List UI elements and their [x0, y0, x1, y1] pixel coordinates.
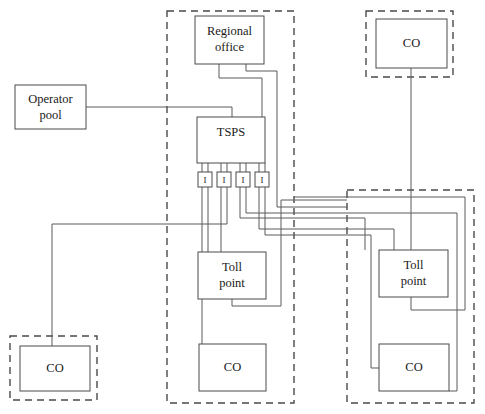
toll-point-right-label-line2: point: [401, 274, 427, 288]
link-group: [52, 64, 465, 391]
node-regional-office[interactable]: Regional office: [195, 16, 264, 64]
node-co-bottom-middle[interactable]: CO: [199, 344, 266, 391]
node-group: Operator pool Regional office TSPS Toll …: [15, 16, 449, 391]
diagram-canvas: Operator pool Regional office TSPS Toll …: [0, 0, 485, 414]
interface-3-label: I: [242, 175, 245, 185]
interface-4[interactable]: I: [255, 172, 269, 187]
toll-point-middle-label-line2: point: [219, 276, 245, 290]
interface-4-label: I: [261, 175, 264, 185]
operator-pool-label-line2: pool: [39, 108, 62, 122]
interface-1-label: I: [204, 175, 207, 185]
node-operator-pool[interactable]: Operator pool: [15, 85, 86, 129]
link-iface4-to-co-bottom-right: [265, 187, 379, 368]
toll-point-right-label-line1: Toll: [404, 258, 424, 272]
node-toll-point-middle[interactable]: Toll point: [198, 252, 266, 299]
node-co-bottom-right[interactable]: CO: [379, 344, 449, 391]
node-toll-point-right[interactable]: Toll point: [379, 250, 448, 297]
interface-3[interactable]: I: [236, 172, 250, 187]
interface-2[interactable]: I: [217, 172, 231, 187]
co-bottom-middle-label: CO: [224, 360, 241, 374]
co-bottom-left-label: CO: [46, 361, 63, 375]
interface-1[interactable]: I: [198, 172, 212, 187]
toll-point-middle-label-line1: Toll: [222, 260, 242, 274]
interface-2-label: I: [223, 175, 226, 185]
regional-office-label-line1: Regional: [207, 24, 253, 38]
node-co-bottom-left[interactable]: CO: [20, 346, 90, 391]
node-tsps[interactable]: TSPS: [197, 117, 265, 163]
network-diagram: Operator pool Regional office TSPS Toll …: [0, 0, 485, 414]
interface-group: I I I I: [198, 172, 269, 187]
co-top-right-label: CO: [403, 36, 420, 50]
link-regional-office-to-tsps: [219, 64, 262, 117]
operator-pool-label-line1: Operator: [28, 92, 73, 106]
node-co-top-right[interactable]: CO: [376, 19, 447, 68]
co-bottom-right-label: CO: [405, 360, 422, 374]
tsps-label: TSPS: [217, 125, 246, 139]
regional-office-label-line2: office: [215, 40, 244, 54]
link-operator-pool-to-tsps: [86, 107, 232, 117]
